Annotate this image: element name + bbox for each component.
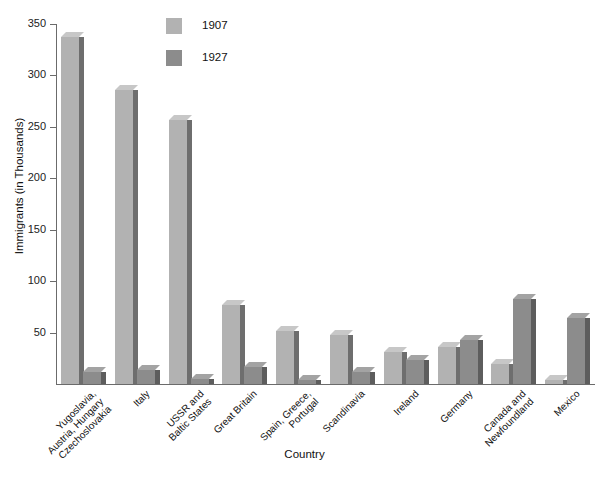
- bar-front-face: [83, 372, 101, 384]
- bar-front-face: [222, 305, 240, 384]
- y-tick-150: [50, 230, 56, 231]
- bar-1927: [513, 299, 531, 384]
- bar-front-face: [298, 380, 316, 384]
- bar-group: [57, 24, 111, 384]
- bar-front-face: [545, 380, 563, 384]
- bar-front-face: [276, 331, 294, 384]
- x-axis-line: [56, 384, 595, 385]
- bar-front-face: [330, 335, 348, 384]
- bar-front-face: [191, 379, 209, 384]
- bar-side-face: [101, 372, 106, 384]
- x-axis-title: Country: [0, 448, 609, 460]
- legend-swatch-1907-icon: [166, 18, 182, 34]
- bar-1907: [438, 347, 456, 384]
- bar-side-face: [209, 379, 214, 384]
- bar-side-face: [133, 90, 138, 384]
- bar-front-face: [352, 372, 370, 384]
- bar-1907: [169, 120, 187, 384]
- bar-front-face: [406, 360, 424, 384]
- bar-front-face: [438, 347, 456, 384]
- x-category-label: USSR and Baltic States: [106, 388, 213, 478]
- legend-label-1907: 1907: [202, 20, 228, 32]
- y-tick-100: [50, 281, 56, 282]
- plot-area: [57, 24, 595, 384]
- y-axis-title: Immigrants (in Thousands): [13, 71, 25, 301]
- bar-1927: [244, 367, 262, 384]
- bar-1927: [460, 340, 478, 384]
- bar-front-face: [491, 364, 509, 384]
- bar-1907: [545, 380, 563, 384]
- bar-side-face: [79, 37, 84, 384]
- bar-side-face: [370, 372, 375, 384]
- bar-group: [272, 24, 326, 384]
- y-tick-200: [50, 178, 56, 179]
- bar-1927: [83, 372, 101, 384]
- bar-front-face: [61, 37, 79, 384]
- bar-1927: [191, 379, 209, 384]
- bar-front-face: [384, 352, 402, 384]
- bar-1907: [276, 331, 294, 384]
- bar-1927: [406, 360, 424, 384]
- bar-front-face: [513, 299, 531, 384]
- chart-legend: 1907 1927: [166, 18, 228, 82]
- bar-side-face: [155, 370, 160, 384]
- bar-group: [487, 24, 541, 384]
- bar-group: [434, 24, 488, 384]
- bar-chart: 50100150200250300350 Immigrants (in Thou…: [0, 0, 609, 478]
- bar-1907: [115, 90, 133, 384]
- y-tick-350: [50, 24, 56, 25]
- legend-item-1907: 1907: [166, 18, 228, 34]
- bar-side-face: [424, 360, 429, 384]
- y-tick-label-350: 350: [0, 18, 46, 29]
- bar-group: [326, 24, 380, 384]
- bar-1927: [567, 318, 585, 384]
- bar-1907: [222, 305, 240, 384]
- bar-front-face: [137, 370, 155, 384]
- bar-front-face: [460, 340, 478, 384]
- bar-side-face: [585, 318, 590, 384]
- bar-front-face: [169, 120, 187, 384]
- bar-1907: [330, 335, 348, 384]
- y-tick-50: [50, 333, 56, 334]
- bar-1927: [137, 370, 155, 384]
- y-tick-300: [50, 75, 56, 76]
- bar-1927: [298, 380, 316, 384]
- bar-1907: [491, 364, 509, 384]
- bar-1907: [61, 37, 79, 384]
- y-tick-label-50: 50: [0, 327, 46, 338]
- x-category-label: Spain, Greece, Portugal: [213, 388, 320, 478]
- legend-item-1927: 1927: [166, 50, 228, 66]
- bar-front-face: [567, 318, 585, 384]
- bar-group: [380, 24, 434, 384]
- bar-1907: [384, 352, 402, 384]
- legend-swatch-1927-icon: [166, 50, 182, 66]
- bar-front-face: [244, 367, 262, 384]
- y-tick-250: [50, 127, 56, 128]
- bar-side-face: [478, 340, 483, 384]
- bar-side-face: [294, 331, 299, 384]
- bar-1927: [352, 372, 370, 384]
- bar-side-face: [187, 120, 192, 384]
- bar-group: [111, 24, 165, 384]
- bar-group: [541, 24, 595, 384]
- bar-side-face: [262, 367, 267, 384]
- bar-side-face: [316, 380, 321, 384]
- bar-side-face: [531, 299, 536, 384]
- legend-label-1927: 1927: [202, 52, 228, 64]
- x-category-label: Canada and Newfoundland: [428, 388, 535, 478]
- x-category-label: Yugoslavia, Austria, Hungary Czechoslova…: [0, 388, 113, 478]
- bar-front-face: [115, 90, 133, 384]
